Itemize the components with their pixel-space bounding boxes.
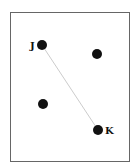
diagram-canvas: J K (0, 0, 137, 168)
point-upper-right (92, 49, 102, 59)
segment-j-k (42, 45, 98, 130)
label-k: K (105, 125, 114, 136)
label-j: J (29, 40, 35, 51)
point-k (93, 125, 103, 135)
point-j (37, 40, 47, 50)
point-lower-left (38, 99, 48, 109)
